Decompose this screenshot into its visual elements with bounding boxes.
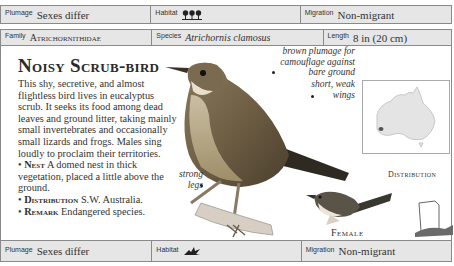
length-label: Length: [328, 32, 349, 39]
description-text: This shy, secretive, and almost flightle…: [18, 78, 178, 159]
species-entry: Noisy Scrub-bird This shy, secretive, an…: [0, 45, 452, 240]
fact-nest: • Nest A domed nest in thick vegetation,…: [18, 159, 178, 194]
habitat-cell: Habitat: [152, 241, 301, 261]
fact-remark: • Remark Endangered species.: [18, 206, 178, 218]
family-label: Family: [5, 32, 26, 39]
plumage-value: Sexes differ: [37, 9, 90, 21]
migration-label: Migration: [305, 9, 334, 16]
species-cell: Species Atrichornis clamosus: [152, 30, 323, 45]
species-title: Noisy Scrub-bird: [18, 55, 159, 77]
distribution-map: [362, 80, 450, 154]
habitat-label: Habitat: [155, 9, 177, 16]
species-value: Atrichornis clamosus: [185, 32, 270, 43]
scrub-bush-icon: [183, 246, 201, 256]
female-bird-illustration: [304, 183, 394, 229]
annotation-plumage: brown plumage for camouflage against bar…: [263, 46, 355, 78]
migration-cell: Migration Non-migrant: [302, 241, 451, 261]
annotation-legs: strong legs: [173, 169, 203, 190]
plumage-cell: Plumage Sexes differ: [1, 241, 152, 261]
plumage-cell: Plumage Sexes differ: [1, 6, 151, 23]
map-caption: Distribution: [388, 170, 436, 179]
forest-trees-icon: [182, 10, 202, 20]
australia-map-icon: [363, 81, 449, 153]
family-cell: Family Atrichornithidae: [1, 30, 152, 45]
family-value: Atrichornithidae: [30, 32, 101, 43]
bottom-info-strip: Plumage Sexes differ Habitat Migration N…: [0, 240, 452, 262]
migration-value: Non-migrant: [337, 9, 394, 21]
plumage-value: Sexes differ: [37, 245, 90, 257]
habitat-cell: Habitat: [151, 6, 300, 23]
annotation-dot: [200, 184, 203, 187]
annotation-dot: [311, 95, 314, 98]
fact-distribution: • Distribution S.W. Australia.: [18, 194, 178, 206]
length-value: 8 in (20 cm): [353, 32, 407, 44]
plumage-label: Plumage: [5, 246, 33, 253]
species-description: This shy, secretive, and almost flightle…: [18, 78, 178, 217]
migration-cell: Migration Non-migrant: [301, 6, 451, 23]
species-label: Species: [156, 32, 181, 39]
length-cell: Length 8 in (20 cm): [324, 30, 451, 45]
annotation-dot: [272, 71, 275, 74]
taxonomy-header: Family Atrichornithidae Species Atrichor…: [0, 29, 452, 46]
migration-label: Migration: [306, 246, 335, 253]
book-silhouette-icon: [415, 199, 453, 239]
habitat-label: Habitat: [156, 246, 178, 253]
top-info-strip: Plumage Sexes differ Habitat Migration N…: [0, 5, 452, 24]
migration-value: Non-migrant: [338, 245, 395, 257]
annotation-wings: short, weak wings: [293, 79, 355, 100]
female-caption: Female: [331, 227, 364, 238]
plumage-label: Plumage: [5, 9, 33, 16]
